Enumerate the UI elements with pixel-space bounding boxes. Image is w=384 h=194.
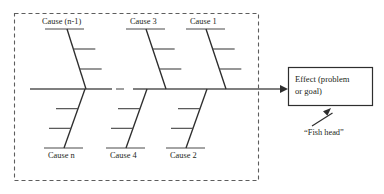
spine-arrowhead-icon <box>280 85 288 93</box>
cause-bone-line <box>64 89 85 148</box>
cause-label-lower-2: Cause 2 <box>170 151 197 160</box>
effect-box-group: Effect (problem or goal) <box>289 68 373 106</box>
cause-label-upper-0: Cause (n-1) <box>42 17 82 26</box>
fish-head-annotation-group: “Fish head” <box>304 108 344 137</box>
cause-bone-line <box>146 29 166 89</box>
lower-cause-bones-group <box>44 89 207 148</box>
cause-bone-line <box>67 29 86 89</box>
cause-label-upper-1: Cause 3 <box>130 17 157 26</box>
cause-label-lower-1: Cause 4 <box>110 151 138 160</box>
cause-label-lower-0: Cause n <box>48 151 76 160</box>
cause-bone-line <box>186 89 207 148</box>
fishbone-diagram-figure: Cause (n-1)Cause 3Cause 1Cause nCause 4C… <box>0 0 384 194</box>
fishbone-diagram-canvas: Cause (n-1)Cause 3Cause 1Cause nCause 4C… <box>0 0 384 194</box>
fish-head-label: “Fish head” <box>304 128 344 137</box>
fish-head-pointer-line <box>312 113 333 126</box>
effect-box-line1: Effect (problem <box>295 74 350 84</box>
spine-group <box>30 85 288 93</box>
upper-cause-bones-group <box>45 29 241 89</box>
cause-bone-line <box>126 89 147 148</box>
effect-box-line2: or goal) <box>295 86 322 96</box>
cause-label-upper-2: Cause 1 <box>190 17 217 26</box>
cause-bone-line <box>206 29 226 89</box>
